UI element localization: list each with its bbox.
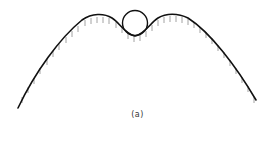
hill-surface-curve	[18, 14, 256, 108]
ball-on-hill-diagram	[0, 0, 275, 163]
ball-circle	[123, 11, 148, 36]
figure-caption: (a)	[0, 110, 275, 119]
surface-hatching	[22, 16, 254, 103]
